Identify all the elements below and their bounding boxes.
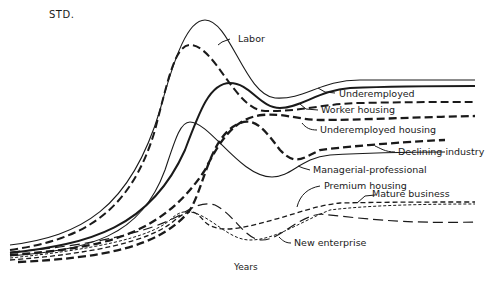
leader-new-enterprise <box>279 237 291 243</box>
label-labor: Labor <box>238 33 265 44</box>
label-managerial-professional: Managerial-professional <box>313 164 427 175</box>
leader-managerial-professional <box>298 166 310 170</box>
leader-labor <box>218 39 230 45</box>
label-underemployed: Underemployed <box>339 88 415 99</box>
leader-declining-industry <box>375 146 395 152</box>
label-declining-industry: Declining industry <box>398 146 485 157</box>
label-new-enterprise: New enterprise <box>294 237 367 248</box>
label-underemployed-housing: Underemployed housing <box>320 124 436 135</box>
leader-underemployed-housing <box>302 123 317 130</box>
series-new-enterprise <box>10 204 475 252</box>
chart-plot: Labor Underemployed Worker housing Under… <box>0 0 486 283</box>
leader-premium-housing <box>297 186 320 207</box>
label-worker-housing: Worker housing <box>321 104 395 115</box>
label-mature-business: Mature business <box>372 188 450 199</box>
